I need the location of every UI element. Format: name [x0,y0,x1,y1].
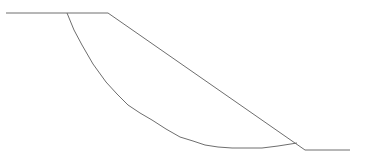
slope-diagram [0,0,365,159]
slip-surface-line [67,13,297,148]
ground-profile-line [6,13,350,150]
